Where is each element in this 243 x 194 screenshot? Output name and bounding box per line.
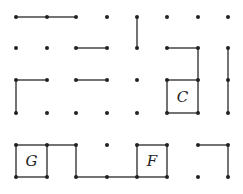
grid-dot[interactable] <box>105 46 109 50</box>
grid-dot[interactable] <box>74 78 78 82</box>
grid-dot[interactable] <box>14 143 18 147</box>
grid-dot[interactable] <box>74 15 78 19</box>
grid-dot[interactable] <box>135 46 139 50</box>
grid-dot[interactable] <box>226 15 230 19</box>
grid-dot[interactable] <box>105 111 109 115</box>
grid-dot[interactable] <box>105 78 109 82</box>
grid-dot[interactable] <box>165 78 169 82</box>
box-owner-label: G <box>26 154 38 169</box>
grid-dot[interactable] <box>165 143 169 147</box>
box-owner-label: F <box>147 154 157 169</box>
grid-dot[interactable] <box>226 175 230 179</box>
grid-dot[interactable] <box>196 143 200 147</box>
grid-dot[interactable] <box>45 46 49 50</box>
grid-dot[interactable] <box>226 143 230 147</box>
grid-dot[interactable] <box>14 15 18 19</box>
grid-dot[interactable] <box>226 46 230 50</box>
grid-dot[interactable] <box>105 143 109 147</box>
grid-dot[interactable] <box>105 175 109 179</box>
grid-dot[interactable] <box>226 78 230 82</box>
grid-dot[interactable] <box>74 46 78 50</box>
grid-dot[interactable] <box>165 175 169 179</box>
grid-dot[interactable] <box>165 46 169 50</box>
grid-dot[interactable] <box>135 143 139 147</box>
grid-dot[interactable] <box>165 15 169 19</box>
grid-dot[interactable] <box>14 46 18 50</box>
grid-dot[interactable] <box>45 143 49 147</box>
box-owner-label: C <box>177 89 188 104</box>
grid-dot[interactable] <box>135 15 139 19</box>
grid-dot[interactable] <box>196 78 200 82</box>
drawn-lines <box>16 17 228 177</box>
grid-dot[interactable] <box>45 78 49 82</box>
grid-dot[interactable] <box>135 111 139 115</box>
grid-dot[interactable] <box>105 15 109 19</box>
grid-dot[interactable] <box>45 175 49 179</box>
grid-dot[interactable] <box>135 78 139 82</box>
grid-dot[interactable] <box>196 111 200 115</box>
grid-dot[interactable] <box>74 143 78 147</box>
grid-dot[interactable] <box>74 111 78 115</box>
grid-dot[interactable] <box>196 15 200 19</box>
grid-dot[interactable] <box>196 46 200 50</box>
grid-dot[interactable] <box>14 78 18 82</box>
grid-dot[interactable] <box>14 111 18 115</box>
grid-dot[interactable] <box>226 111 230 115</box>
grid-dot[interactable] <box>14 175 18 179</box>
grid-dot[interactable] <box>165 111 169 115</box>
grid-dot[interactable] <box>45 111 49 115</box>
grid-dot[interactable] <box>74 175 78 179</box>
grid-dot[interactable] <box>135 175 139 179</box>
grid-dot[interactable] <box>45 15 49 19</box>
grid-dot[interactable] <box>196 175 200 179</box>
